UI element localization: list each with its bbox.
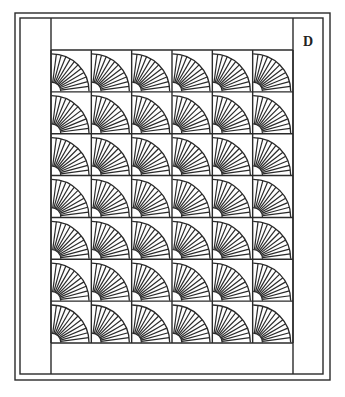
fan-block: [213, 138, 251, 176]
fan-block: [253, 221, 291, 259]
fan-block: [92, 96, 130, 134]
fan-block: [173, 54, 211, 92]
fan-block: [52, 54, 90, 92]
fan-block: [132, 96, 170, 134]
fan-block: [52, 263, 90, 301]
fan-block: [173, 305, 211, 343]
fan-block: [132, 54, 170, 92]
fan-block: [253, 305, 291, 343]
fan-block: [253, 138, 291, 176]
fan-block: [52, 179, 90, 217]
fan-block: [92, 305, 130, 343]
fan-block: [132, 138, 170, 176]
fan-block: [92, 221, 130, 259]
fan-block: [92, 263, 130, 301]
fan-block: [173, 96, 211, 134]
fan-block: [213, 179, 251, 217]
fan-block: [132, 179, 170, 217]
fan-block: [253, 96, 291, 134]
fan-block: [132, 221, 170, 259]
fan-block: [213, 263, 251, 301]
fan-block: [253, 54, 291, 92]
fan-block: [213, 221, 251, 259]
fan-block: [173, 138, 211, 176]
fan-block: [52, 305, 90, 343]
fan-block: [213, 305, 251, 343]
fan-block: [92, 54, 130, 92]
fan-block: [173, 179, 211, 217]
fan-block: [52, 138, 90, 176]
fan-block: [132, 305, 170, 343]
fan-block-grid: [51, 50, 293, 343]
fan-block: [92, 138, 130, 176]
fan-block: [213, 54, 251, 92]
fan-block: [173, 221, 211, 259]
fan-block: [52, 221, 90, 259]
fan-block: [92, 179, 130, 217]
fan-block: [132, 263, 170, 301]
fan-block: [253, 179, 291, 217]
quilt-diagram: [0, 0, 345, 397]
diagram-label: D: [303, 35, 313, 49]
fan-block: [173, 263, 211, 301]
fan-block: [253, 263, 291, 301]
fan-block: [213, 96, 251, 134]
fan-block: [52, 96, 90, 134]
